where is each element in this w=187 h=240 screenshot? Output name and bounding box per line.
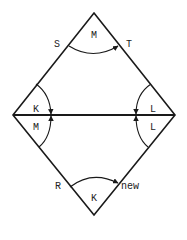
label-k-bottom: K xyxy=(91,194,97,204)
label-k-mid: K xyxy=(33,105,39,115)
top-angle-arc xyxy=(69,46,118,54)
right-lower-angle-arc xyxy=(136,116,148,147)
label-m-top: M xyxy=(91,31,97,41)
label-l-mid-lower: L xyxy=(150,123,156,133)
label-m-mid: M xyxy=(33,123,39,133)
label-new: new xyxy=(121,182,139,192)
label-t: T xyxy=(126,40,132,50)
left-lower-angle-arc xyxy=(39,116,51,147)
label-r: R xyxy=(55,182,61,192)
label-l-mid-upper: L xyxy=(150,105,156,115)
right-upper-angle-arc xyxy=(136,84,151,114)
label-s: S xyxy=(54,40,60,50)
bottom-angle-arc xyxy=(70,177,118,187)
